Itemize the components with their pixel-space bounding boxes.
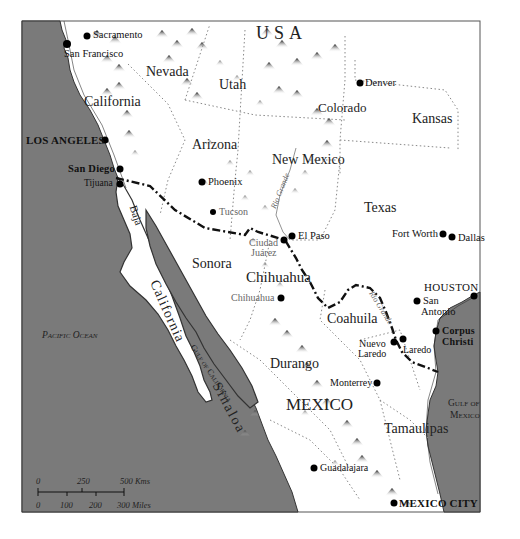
city-label-denver: Denver bbox=[365, 78, 396, 89]
state-label-california: California bbox=[84, 95, 141, 109]
scale-km-0: 0 bbox=[36, 477, 40, 486]
city-label-san-francisco: San Francisco bbox=[64, 49, 123, 60]
city-label-tijuana: Tijuana bbox=[84, 179, 113, 189]
city-label-tucson: Tucson bbox=[219, 207, 248, 217]
water-label-gulf-of: Gulf of bbox=[448, 398, 479, 409]
country-label-usa: USA bbox=[256, 24, 307, 42]
city-label-fort-worth: Fort Worth bbox=[392, 229, 438, 240]
city-label-guadalajara: Guadalajara bbox=[320, 463, 368, 473]
city-label-laredo: Laredo bbox=[403, 345, 431, 355]
state-label-texas: Texas bbox=[364, 201, 396, 215]
state-label-arizona: Arizona bbox=[192, 138, 237, 152]
scale-mi-300: 300 Miles bbox=[117, 501, 151, 510]
city-label-san-diego: San Diego bbox=[68, 164, 115, 175]
city-label-sacramento: Sacramento bbox=[93, 30, 143, 41]
city-label-monterrey: Monterrey bbox=[330, 378, 372, 388]
country-label-mexico: MEXICO bbox=[286, 396, 353, 413]
city-label-chihuahua-city: Chihuahua bbox=[231, 293, 274, 303]
city-label-dallas: Dallas bbox=[458, 233, 485, 244]
city-label-los-angeles: LOS ANGELES bbox=[26, 135, 105, 146]
state-label-utah: Utah bbox=[219, 78, 246, 92]
scale-mi-100: 100 bbox=[60, 501, 73, 510]
city-label-el-paso: El Paso bbox=[298, 231, 330, 242]
state-label-kansas: Kansas bbox=[412, 112, 452, 126]
city-label-mexico-city: MEXICO CITY bbox=[399, 498, 478, 509]
state-label-colorado: Colorado bbox=[318, 101, 366, 114]
state-label-coahuila: Coahuila bbox=[327, 312, 378, 326]
city-label-san: San bbox=[423, 296, 439, 307]
state-label-nevada: Nevada bbox=[146, 65, 189, 79]
water-label-mexico: Mexico bbox=[450, 410, 480, 421]
water-label-pacific-ocean: Pacific Ocean bbox=[42, 331, 97, 341]
state-label-chihuahua: Chihuahua bbox=[246, 270, 311, 285]
state-label-sonora: Sonora bbox=[192, 257, 232, 271]
city-label-antonio: Antonio bbox=[421, 307, 455, 318]
scale-mi-200: 200 bbox=[89, 501, 102, 510]
scale-mi-0: 0 bbox=[36, 501, 40, 510]
scale-km-500: 500 Kms bbox=[120, 477, 150, 486]
city-label-nuevo-laredo: Laredo bbox=[358, 349, 386, 359]
city-label-corpus: Corpus bbox=[442, 326, 475, 336]
scale-km-250: 250 bbox=[77, 477, 90, 486]
city-label-juarez: Juárez bbox=[251, 248, 277, 258]
city-label-phoenix: Phoenix bbox=[208, 177, 242, 188]
state-label-tamaulipas: Tamaulipas bbox=[384, 422, 448, 436]
state-label-new-mexico: New Mexico bbox=[272, 153, 345, 167]
state-label-durango: Durango bbox=[270, 357, 319, 371]
city-label-christi: Christi bbox=[442, 337, 473, 347]
city-label-houston: HOUSTON bbox=[424, 282, 478, 293]
